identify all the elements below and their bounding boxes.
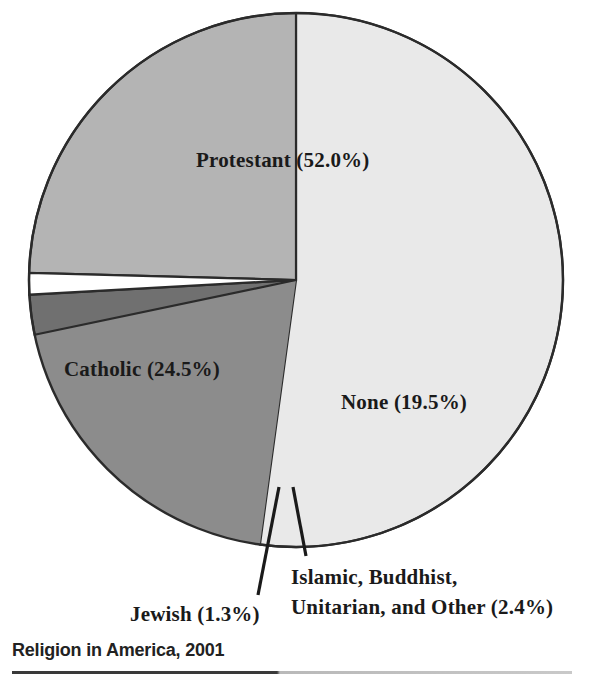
pie-chart-graphic — [0, 0, 589, 660]
pie-slice-catholic — [29, 13, 296, 280]
caption-divider-rule — [12, 671, 572, 674]
pie-label-other-line1: Islamic, Buddhist, — [291, 565, 457, 589]
pie-slice-protestant — [260, 13, 563, 547]
pie-label-catholic: Catholic (24.5%) — [64, 357, 220, 382]
pie-label-other-line2: Unitarian, and Other (2.4%) — [291, 595, 553, 619]
figure-caption-title: Religion in America, 2001 — [12, 640, 224, 661]
pie-label-protestant: Protestant (52.0%) — [196, 148, 370, 173]
pie-chart-figure: Protestant (52.0%) Catholic (24.5%) None… — [0, 0, 589, 684]
pie-label-jewish: Jewish (1.3%) — [130, 602, 260, 627]
pie-label-other: Islamic, Buddhist, Unitarian, and Other … — [291, 562, 581, 622]
pie-label-none: None (19.5%) — [341, 390, 467, 415]
